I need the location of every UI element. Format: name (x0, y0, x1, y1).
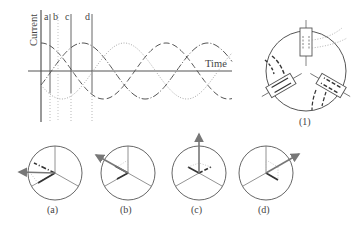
resultant-arrow-icon (266, 154, 299, 173)
x-axis-label: Time (205, 58, 227, 69)
coil-left (316, 73, 346, 97)
phasor-diagram-b: (b) (96, 146, 155, 216)
phasor-caption-b: (b) (120, 204, 132, 216)
coil-top (300, 28, 312, 56)
coil-right (266, 73, 296, 97)
phasor-diagram-d: (d) (239, 146, 299, 216)
phasor-diagram-a: (a) (19, 146, 82, 216)
diagram-canvas: Current Time a b c d (0, 0, 359, 227)
marker-lines (50, 14, 92, 121)
resultant-arrow-icon (19, 172, 55, 173)
phasor-caption-a: (a) (47, 204, 58, 216)
marker-label-d: d (85, 11, 90, 22)
y-axis-label: Current (28, 14, 39, 46)
phasor-caption-c: (c) (191, 204, 202, 216)
phasor-caption-d: (d) (258, 204, 270, 216)
phasor-diagram-c: (c) (172, 134, 226, 216)
stator-caption: (1) (299, 116, 311, 128)
stator-diagram: (1) (259, 20, 353, 128)
marker-label-a: a (44, 11, 49, 22)
waveform-graph: Current Time a b c d (28, 10, 232, 122)
marker-label-b: b (53, 11, 58, 22)
marker-label-c: c (65, 11, 70, 22)
